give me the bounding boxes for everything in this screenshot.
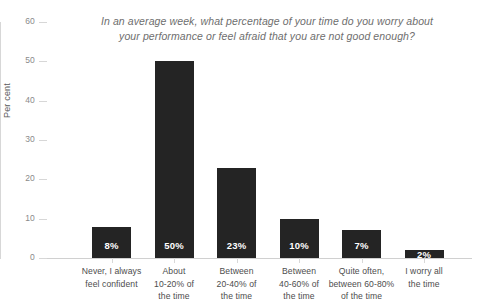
y-tick [39, 140, 47, 141]
y-tick-label: 0 [9, 252, 35, 262]
y-tick [39, 61, 47, 62]
chart-title: In an average week, what percentage of y… [62, 14, 472, 44]
chart-title-line-1: In an average week, what percentage of y… [62, 14, 472, 29]
x-tick [237, 258, 238, 263]
y-tick-label: 40 [9, 95, 35, 105]
chart-title-line-2: your performance or feel afraid that you… [62, 29, 472, 44]
x-axis-category-line: of the time [325, 290, 398, 303]
bar[interactable] [155, 61, 194, 258]
y-tick-label: 60 [9, 16, 35, 26]
bar-value-label: 23% [217, 240, 256, 251]
x-axis-category-line: the time [388, 278, 461, 291]
x-tick [112, 258, 113, 263]
y-tick-label: 10 [9, 213, 35, 223]
y-tick-label: 20 [9, 173, 35, 183]
x-tick [362, 258, 363, 263]
bar-value-label: 7% [342, 240, 381, 251]
y-tick [39, 179, 47, 180]
y-axis-line [0, 22, 1, 259]
x-axis-category-line: I worry all [388, 265, 461, 278]
y-tick [39, 219, 47, 220]
bar-value-label: 50% [155, 240, 194, 251]
y-tick-label: 30 [9, 134, 35, 144]
y-tick [39, 101, 47, 102]
bar-chart: In an average week, what percentage of y… [0, 0, 480, 306]
x-axis-category-label: I worry allthe time [388, 265, 461, 290]
y-tick [39, 22, 47, 23]
bar-value-label: 10% [280, 240, 319, 251]
bar-value-label: 2% [405, 249, 444, 260]
y-tick [39, 258, 47, 259]
y-tick-label: 50 [9, 55, 35, 65]
x-tick [174, 258, 175, 263]
bar[interactable] [280, 219, 319, 258]
x-tick [299, 258, 300, 263]
bar-value-label: 8% [92, 240, 131, 251]
